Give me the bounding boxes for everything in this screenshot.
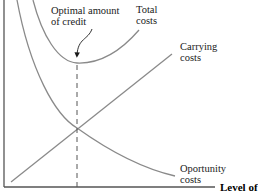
- total-costs-label-line2: costs: [136, 15, 157, 26]
- carrying-costs-line: [11, 54, 172, 182]
- x-axis-label: Level of: [220, 182, 258, 191]
- optimal-label-line2: of credit: [51, 16, 86, 27]
- optimal-label-line1: Optimal amount: [51, 5, 120, 16]
- carrying-costs-label-line1: Carrying: [180, 41, 217, 52]
- opportunity-costs-curve: [17, 0, 175, 176]
- optimal-arrow-icon: [77, 29, 92, 55]
- opportunity-costs-label-line2: costs: [180, 174, 201, 185]
- carrying-costs-label-line2: costs: [180, 52, 201, 63]
- total-costs-label-line1: Total: [136, 4, 157, 15]
- opportunity-costs-label-line1: Oportunity: [180, 163, 226, 174]
